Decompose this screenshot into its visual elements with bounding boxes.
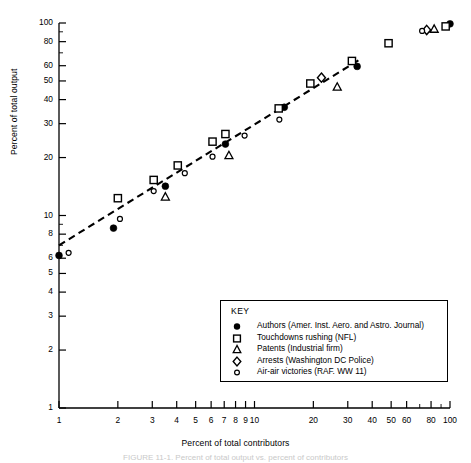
y-tick-label: 50 — [19, 76, 53, 85]
data-point-open-triangle — [333, 83, 341, 90]
data-point-small-open-circle — [420, 28, 425, 33]
y-tick-label: 6 — [19, 253, 53, 262]
data-point-small-open-circle — [242, 133, 247, 138]
data-point-small-open-circle — [151, 189, 156, 194]
data-point-open-square — [174, 162, 181, 169]
data-point-small-open-circle — [210, 154, 215, 159]
legend-item-label: Touchdowns rushing (NFL) — [257, 332, 356, 342]
data-point-open-square — [275, 105, 282, 112]
x-tick-label: 10 — [240, 416, 270, 425]
legend-key-box: KEY Authors (Amer. Inst. Aero. and Astro… — [220, 300, 448, 382]
legend-marker-small-open-circle-icon — [231, 367, 243, 377]
x-tick-label: 100 — [435, 416, 465, 425]
legend-marker-open-square-icon — [231, 333, 243, 343]
x-tick-label: 20 — [298, 416, 328, 425]
data-point-small-open-circle — [277, 117, 282, 122]
data-point-filled-circle — [162, 183, 169, 190]
data-point-open-square — [307, 80, 314, 87]
y-tick-label: 4 — [19, 287, 53, 296]
data-point-open-square — [114, 195, 121, 202]
legend-item-label: Authors (Amer. Inst. Aero. and Astro. Jo… — [257, 320, 424, 330]
legend-title: KEY — [231, 306, 249, 316]
data-point-filled-circle — [222, 141, 229, 148]
data-point-open-square — [150, 176, 157, 183]
chart-figure: Percent of total output Percent of total… — [0, 0, 471, 463]
legend-item-label: Air-air victories (RAF. WW 11) — [257, 366, 367, 376]
data-point-open-square — [442, 23, 449, 30]
legend-item-label: Arrests (Washington DC Police) — [257, 355, 374, 365]
y-tick-label: 5 — [19, 268, 53, 277]
data-point-filled-circle — [110, 225, 117, 232]
data-point-open-triangle — [161, 193, 169, 200]
y-tick-label: 3 — [19, 311, 53, 320]
y-tick-label: 30 — [19, 119, 53, 128]
y-tick-label: 8 — [19, 229, 53, 238]
data-point-small-open-circle — [182, 171, 187, 176]
legend-marker-open-triangle-icon — [231, 344, 243, 354]
data-point-open-square — [348, 57, 355, 64]
legend-marker-open-diamond-icon — [231, 356, 243, 366]
legend-marker-filled-circle-icon — [231, 321, 243, 331]
data-point-open-triangle — [225, 151, 233, 158]
data-point-small-open-circle — [117, 216, 122, 221]
x-axis-title: Percent of total contributors — [0, 438, 471, 448]
y-tick-label: 2 — [19, 345, 53, 354]
x-tick-label: 1 — [44, 416, 74, 425]
data-point-open-square — [222, 130, 229, 137]
y-tick-label: 40 — [19, 95, 53, 104]
trend-line — [59, 60, 358, 245]
data-point-open-square — [209, 138, 216, 145]
x-tick-label: 2 — [103, 416, 133, 425]
data-point-small-open-circle — [66, 250, 71, 255]
y-tick-label: 20 — [19, 153, 53, 162]
data-point-open-triangle — [430, 25, 438, 32]
data-point-filled-circle — [56, 252, 63, 259]
y-tick-label: 100 — [19, 18, 53, 27]
y-tick-label: 60 — [19, 61, 53, 70]
figure-caption: FIGURE 11-1. Percent of total output vs.… — [0, 453, 471, 462]
y-tick-label: 10 — [19, 211, 53, 220]
data-point-open-square — [385, 40, 392, 47]
y-axis-title: Percent of total output — [9, 0, 19, 155]
scatter-plot-canvas — [0, 0, 471, 463]
y-tick-label: 80 — [19, 37, 53, 46]
legend-item-label: Patents (Industrial firm) — [257, 343, 343, 353]
y-tick-label: 1 — [19, 403, 53, 412]
